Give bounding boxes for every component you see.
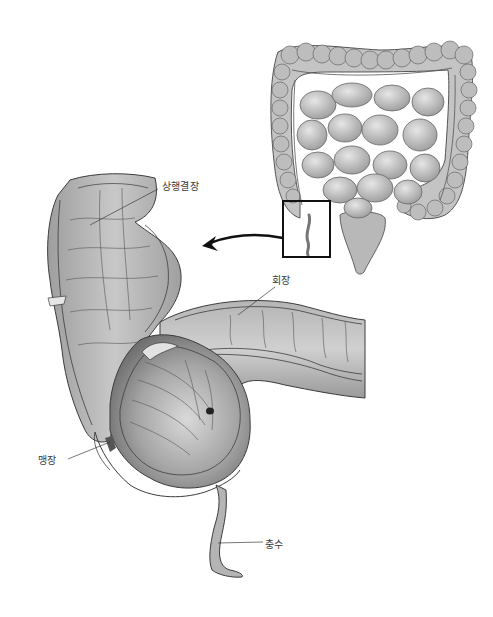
label-appendix: 충수 <box>265 536 283 551</box>
zoom-arrow <box>202 235 283 251</box>
intestines-inset <box>271 41 477 274</box>
cecum-enlarged-view <box>48 174 365 577</box>
label-ascending-colon: 상행결장 <box>162 178 199 193</box>
inset-appendix <box>307 215 310 255</box>
label-ileum: 회장 <box>272 272 290 287</box>
rectum <box>340 212 385 275</box>
label-cecum: 맹장 <box>38 452 56 467</box>
appendix-orifice <box>206 408 214 415</box>
appendix <box>210 485 243 577</box>
arrowhead-icon <box>202 236 218 251</box>
anatomy-illustration <box>0 0 493 617</box>
